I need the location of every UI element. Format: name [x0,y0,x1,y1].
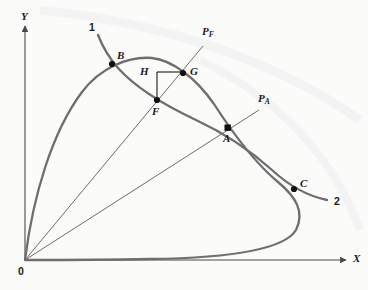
x-axis-label: X [353,253,360,264]
pf-label: PF [202,26,214,38]
pa-label: PA [258,93,270,105]
pf-base: P [202,25,209,37]
diagram-canvas: Y X 0 1 2 B G F A C H PF PA [0,0,368,290]
point-b-label: B [117,50,124,61]
point-f-label: F [152,106,159,117]
point-c-label: C [300,178,307,189]
diagram-svg [0,0,368,290]
rays [25,46,259,260]
ray-pf [25,46,203,260]
point-g-label: G [190,66,198,77]
pa-subscript: A [265,97,270,106]
point-a-label: A [223,133,230,144]
pf-subscript: F [209,30,214,39]
origin-label: 0 [18,266,24,277]
h-label: H [140,66,149,77]
curve-1-label: 1 [89,22,95,33]
background-wash [40,10,360,230]
point-b-dot [109,61,115,67]
point-f-dot [154,97,160,103]
pa-base: P [258,92,265,104]
point-g-dot [180,70,186,76]
y-axis-label: Y [21,11,28,22]
curve-2-label: 2 [334,196,340,207]
point-a-dot [225,125,231,131]
point-c-dot [291,186,297,192]
